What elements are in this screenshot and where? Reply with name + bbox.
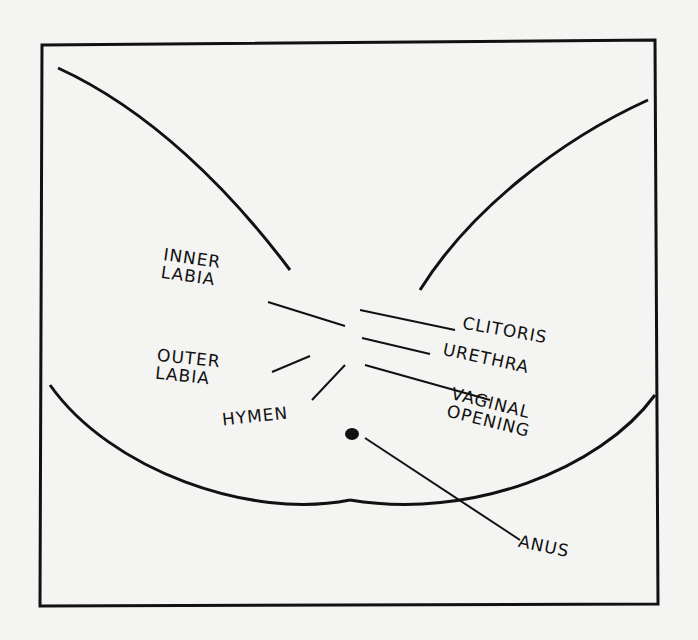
line-drawing [0,0,698,640]
label-outer-labia: OUTER LABIA [154,347,221,389]
label-inner-labia: INNER LABIA [160,246,222,289]
border-frame [40,40,658,606]
